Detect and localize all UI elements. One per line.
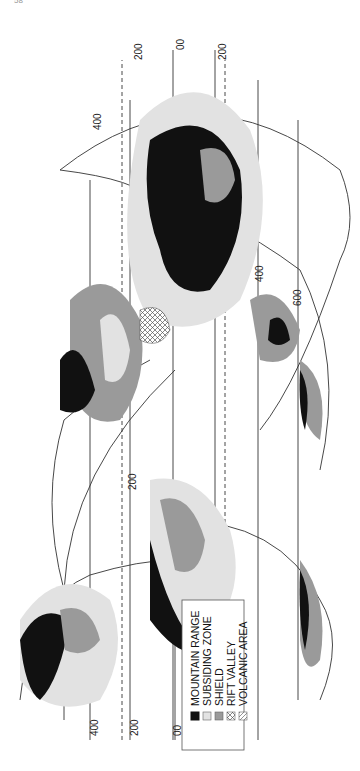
lat-label-top-200a: 200 — [133, 43, 144, 60]
lat-label-400: 400 — [89, 719, 100, 736]
landmasses — [20, 92, 323, 706]
world-map-figure: 400 200 00 200 00 200 400 200 400 600 MO… — [0, 0, 360, 771]
lat-label-top-200b: 200 — [217, 43, 228, 60]
legend: MOUNTAIN RANGE SUBSIDING ZONE SHIELD RIF… — [182, 600, 249, 750]
lat-label-200: 200 — [129, 719, 140, 736]
legend-volcanic-area: VOLCANIC AREA — [237, 621, 249, 706]
lat-label-400-mid: 400 — [254, 265, 265, 282]
legend-shield: SHIELD — [213, 668, 225, 706]
legend-rift-valley: RIFT VALLEY — [225, 641, 237, 706]
lat-label-200-mid: 200 — [127, 473, 138, 490]
lat-label-600: 600 — [292, 289, 303, 306]
legend-subsiding-zone: SUBSIDING ZONE — [201, 616, 213, 706]
legend-mountain-range: MOUNTAIN RANGE — [189, 611, 201, 706]
lat-label-00: 00 — [172, 724, 183, 736]
lat-label-top-00: 00 — [175, 38, 186, 50]
lat-label-400-top: 400 — [92, 113, 103, 130]
